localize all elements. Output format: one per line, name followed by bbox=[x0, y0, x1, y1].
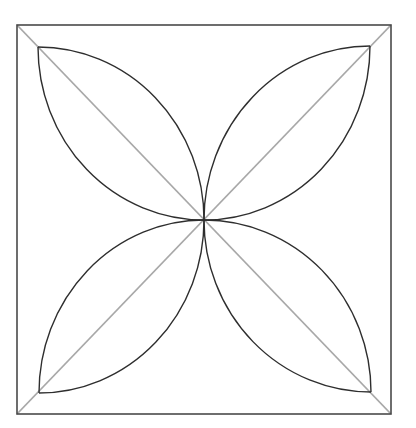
geometric-diagram bbox=[0, 0, 416, 428]
